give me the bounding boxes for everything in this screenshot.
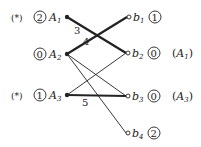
marked-star: (*)	[11, 13, 23, 23]
marked-star: (*)	[11, 91, 23, 101]
vertex-dot	[65, 52, 69, 56]
left-node-A1: (*) 2 A1	[11, 11, 69, 25]
vertex-open-circle	[126, 94, 130, 98]
right-node-b2: b2 0 (A1)	[126, 47, 193, 61]
vertex-dot	[65, 93, 69, 97]
edge-weight-A2-b1: 4	[83, 36, 89, 47]
left-node-A2: 0 A2	[34, 48, 69, 62]
vertex-open-circle	[126, 51, 130, 55]
node-name: b3	[132, 90, 144, 104]
node-label-value: 0	[37, 49, 43, 60]
edge-A3-b3	[67, 95, 126, 96]
vertex-open-circle	[126, 131, 130, 135]
node-name: b1	[133, 11, 145, 25]
node-label-value: 0	[151, 48, 157, 59]
node-label-value: 0	[151, 91, 157, 102]
node-label-value: 2	[151, 128, 157, 139]
edge-A2-b4	[67, 54, 126, 133]
node-label-value: 1	[152, 12, 158, 23]
node-name: b4	[132, 127, 144, 141]
node-annotation: (A3)	[172, 90, 193, 104]
right-node-b1: b1 1	[127, 11, 161, 25]
node-annotation: (A1)	[172, 47, 193, 61]
right-node-b3: b3 0 (A3)	[126, 90, 193, 104]
node-label-value: 1	[37, 90, 43, 101]
node-name: A3	[48, 89, 62, 103]
edge-weight-A1-b2: 3	[74, 25, 80, 36]
edge-A3-b2	[67, 53, 126, 95]
node-label-value: 2	[37, 12, 43, 23]
bipartite-graph: 3 4 5 (*) 2 A1 0 A2 (*) 1 A3 b1 1 b2 0 (…	[0, 0, 201, 147]
edge-A2-b3	[67, 54, 126, 96]
node-name: A1	[48, 11, 61, 25]
node-name: A2	[48, 48, 62, 62]
right-node-b4: b4 2	[126, 127, 160, 141]
node-name: b2	[132, 47, 144, 61]
vertex-open-circle	[127, 15, 131, 19]
left-node-A3: (*) 1 A3	[11, 89, 69, 103]
vertex-dot	[65, 15, 69, 19]
edge-weight-A3-b3: 5	[82, 97, 88, 108]
